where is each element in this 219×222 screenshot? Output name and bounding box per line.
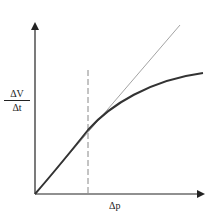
response-curve <box>35 73 203 194</box>
y-axis-label: ΔV Δt <box>4 88 30 113</box>
x-axis-label: Δp <box>109 200 120 211</box>
y-axis-label-numerator: ΔV <box>4 88 30 101</box>
y-axis-label-denominator: Δt <box>4 101 30 113</box>
graph-canvas <box>0 0 219 222</box>
